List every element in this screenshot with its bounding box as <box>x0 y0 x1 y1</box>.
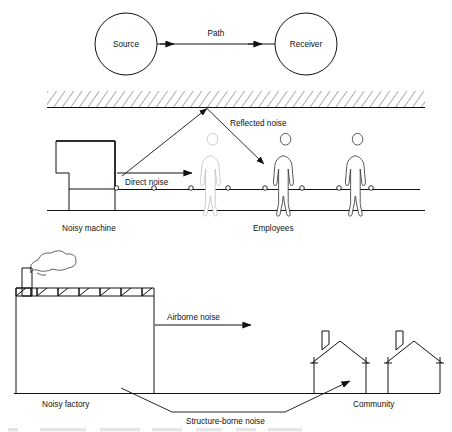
employee-figure <box>200 133 220 216</box>
structure-borne-noise-label: Structure-borne noise <box>186 417 265 426</box>
sawtooth-roof-slopes <box>16 288 152 296</box>
panel-community: Airborne noise Structure-borne noise <box>14 251 444 426</box>
panel-workplace: Reflected noise Direct noise <box>47 91 425 233</box>
sawtooth-roof-teeth <box>16 288 154 296</box>
machine-outline-top <box>56 141 115 189</box>
house-figure <box>310 331 370 393</box>
conveyor-roller <box>189 186 194 191</box>
community-label: Community <box>353 400 395 409</box>
conveyor-roller <box>369 186 374 191</box>
house-figure <box>384 331 444 393</box>
conveyor-roller <box>337 186 342 191</box>
noisy-factory-label: Noisy factory <box>42 400 90 409</box>
conveyor-roller <box>300 186 305 191</box>
employees-label: Employees <box>253 224 294 233</box>
noisy-machine-body <box>56 141 115 189</box>
airborne-noise-label: Airborne noise <box>167 313 220 322</box>
conveyor-roller <box>226 186 231 191</box>
panel-source-path-receiver: Source Receiver Path <box>95 13 337 75</box>
conveyor-roller <box>152 186 157 191</box>
reflected-noise-label: Reflected noise <box>230 119 287 128</box>
smoke-detail <box>37 273 46 275</box>
house-chimney <box>322 331 329 350</box>
house-roof <box>312 341 368 363</box>
employee-figure <box>273 133 293 216</box>
noise-diagram-figure: Source Receiver Path Reflected noise <box>0 0 452 432</box>
house-roof <box>386 341 442 363</box>
employee-figure <box>345 133 365 216</box>
cut-off-caption-row <box>8 428 302 431</box>
factory-walls <box>16 296 154 393</box>
smoke-cloud <box>30 251 76 273</box>
diagram-canvas: Source Receiver Path Reflected noise <box>0 0 452 432</box>
receiver-node-label: Receiver <box>290 40 323 49</box>
path-connector-label: Path <box>208 29 225 38</box>
ceiling-hatching <box>47 91 425 108</box>
structure-borne-noise-path <box>121 381 350 412</box>
source-node-label: Source <box>113 40 139 49</box>
house-chimney <box>396 331 403 350</box>
direct-noise-label: Direct noise <box>125 178 169 187</box>
reflected-noise-incident-ray <box>122 109 207 177</box>
conveyor-roller <box>114 186 119 191</box>
noisy-machine-label: Noisy machine <box>62 224 116 233</box>
conveyor-roller <box>263 186 268 191</box>
